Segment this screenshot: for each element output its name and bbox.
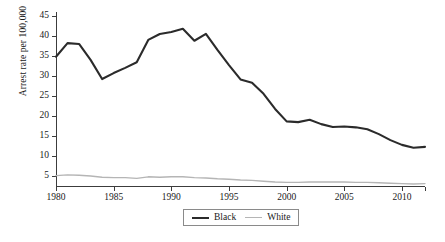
legend-swatch-white-icon [245,217,262,218]
chart-legend: Black White [183,209,299,226]
line-series-black [56,29,425,148]
legend-label-black: Black [214,213,236,223]
chart-figure: Arrest rate per 100,000 4540353025201510… [0,0,445,242]
legend-item-white[interactable]: White [245,213,290,223]
series-layer [0,0,445,242]
legend-item-black[interactable]: Black [192,213,236,223]
line-series-white [56,175,425,184]
legend-label-white: White [267,213,290,223]
legend-swatch-black-icon [192,217,209,219]
